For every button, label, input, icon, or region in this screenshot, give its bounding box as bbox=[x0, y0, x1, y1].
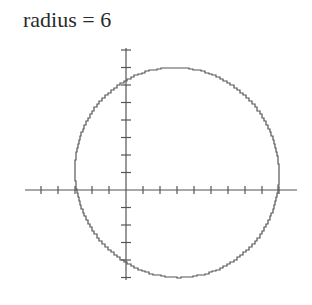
circle-curve bbox=[75, 68, 279, 278]
axes bbox=[25, 48, 297, 280]
circle-plot bbox=[0, 0, 312, 305]
